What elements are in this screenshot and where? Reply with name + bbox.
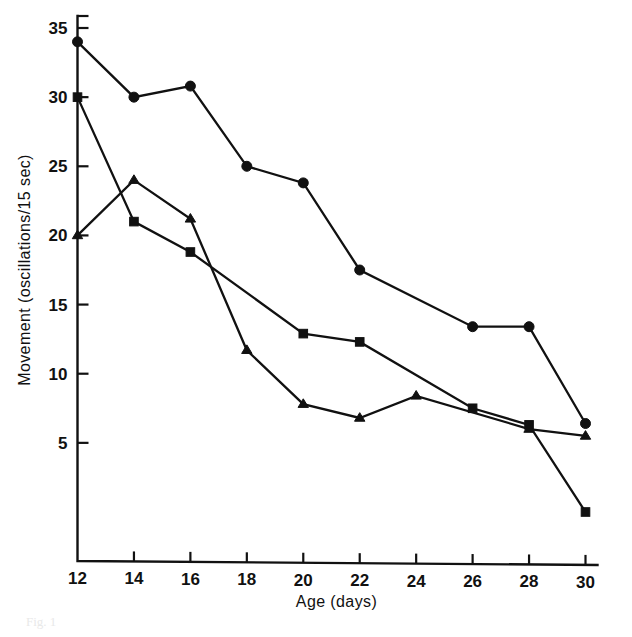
square-marker — [581, 508, 590, 517]
square-marker — [299, 329, 308, 338]
circle-marker — [242, 161, 252, 171]
series-polyline — [78, 97, 586, 512]
y-axis-tick-label: 20 — [49, 226, 68, 245]
x-axis-tick-label: 30 — [576, 573, 595, 592]
data-series-group — [72, 37, 590, 516]
circle-marker — [73, 37, 83, 47]
x-axis-tick-label: 12 — [68, 569, 87, 588]
x-axis-tick-label: 28 — [520, 572, 539, 591]
x-axis-tick-label: 26 — [463, 572, 482, 591]
circle-marker — [355, 265, 365, 275]
x-axis-title: Age (days) — [296, 593, 377, 610]
y-axis-tick-label: 35 — [49, 19, 68, 38]
figure-container: 5101520253035 12141618202224262830 Movem… — [0, 0, 632, 637]
partial-caption: Fig. 1 — [26, 614, 56, 630]
axes-group — [78, 16, 598, 565]
x-axis-tick-label: 18 — [237, 570, 256, 589]
circle-marker — [129, 92, 139, 102]
x-axis-tick-label: 22 — [350, 571, 369, 590]
ticks-group — [78, 16, 586, 565]
y-axis-tick-label: 10 — [49, 365, 68, 384]
square-marker — [130, 217, 139, 226]
y-axis-tick-label: 25 — [49, 157, 68, 176]
circle-marker — [581, 418, 591, 428]
square-marker — [186, 248, 195, 257]
triangle-marker — [242, 345, 252, 354]
filled-circle-series — [73, 37, 591, 429]
x-axis-tick-labels: 12141618202224262830 — [68, 569, 595, 592]
circle-marker — [185, 81, 195, 91]
x-axis-tick-label: 14 — [124, 569, 143, 588]
axis-titles-group: Movement (oscillations/15 sec)Age (days) — [16, 154, 377, 610]
circle-marker — [468, 322, 478, 332]
y-axis-tick-label: 5 — [58, 434, 67, 453]
y-axis-tick-label: 15 — [49, 296, 68, 315]
line-chart: 5101520253035 12141618202224262830 Movem… — [0, 0, 632, 637]
triangle-marker — [185, 214, 195, 223]
axis-spine — [78, 16, 598, 565]
y-axis-tick-label: 30 — [49, 88, 68, 107]
x-axis-tick-label: 24 — [407, 572, 426, 591]
square-marker — [73, 93, 82, 102]
series-polyline — [78, 180, 586, 436]
y-axis-tick-labels: 5101520253035 — [49, 19, 68, 453]
circle-marker — [298, 178, 308, 188]
x-axis-tick-label: 20 — [294, 571, 313, 590]
circle-marker — [524, 322, 534, 332]
triangle-marker — [411, 391, 421, 400]
x-axis-tick-label: 16 — [181, 570, 200, 589]
filled-square-series — [73, 93, 590, 516]
filled-triangle-series — [72, 175, 590, 439]
triangle-marker — [129, 175, 139, 184]
square-marker — [355, 338, 364, 347]
y-axis-title: Movement (oscillations/15 sec) — [16, 154, 33, 386]
